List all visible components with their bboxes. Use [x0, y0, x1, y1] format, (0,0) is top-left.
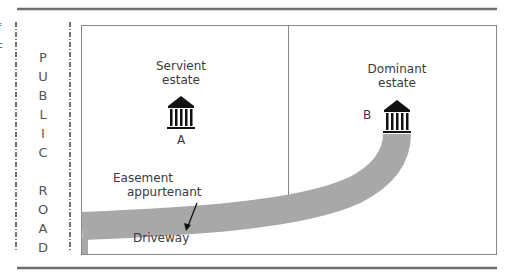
public-road-label: P U B L I C R O A D — [29, 48, 57, 257]
easement-line2: appurtenant — [113, 185, 201, 199]
road-letter-gap — [29, 162, 57, 181]
road-letter: C — [29, 143, 57, 162]
road-letter: O — [29, 200, 57, 219]
building-icon-a — [167, 96, 195, 129]
edge-fragment: c — [0, 38, 3, 52]
road-letter: I — [29, 124, 57, 143]
servient-line1: Servient — [146, 59, 216, 73]
easement-line1: Easement — [113, 171, 201, 185]
road-letter: L — [29, 105, 57, 124]
dominant-line1: Dominant — [360, 62, 434, 76]
servient-line2: estate — [146, 73, 216, 87]
road-letter: P — [29, 48, 57, 67]
diagram-canvas — [0, 0, 510, 275]
building-icon-b — [383, 100, 411, 133]
easement-label: Easement appurtenant — [113, 171, 201, 199]
dominant-estate-label: Dominant estate — [360, 62, 434, 90]
driveway-label: Driveway — [133, 231, 189, 245]
road-letter: U — [29, 67, 57, 86]
edge-fragment: f — [0, 20, 1, 34]
marker-a: A — [171, 133, 191, 147]
road-letter: A — [29, 219, 57, 238]
road-letter: B — [29, 86, 57, 105]
servient-estate-label: Servient estate — [146, 59, 216, 87]
road-letter: R — [29, 181, 57, 200]
marker-b: B — [360, 108, 374, 122]
dominant-line2: estate — [360, 76, 434, 90]
road-letter: D — [29, 238, 57, 257]
